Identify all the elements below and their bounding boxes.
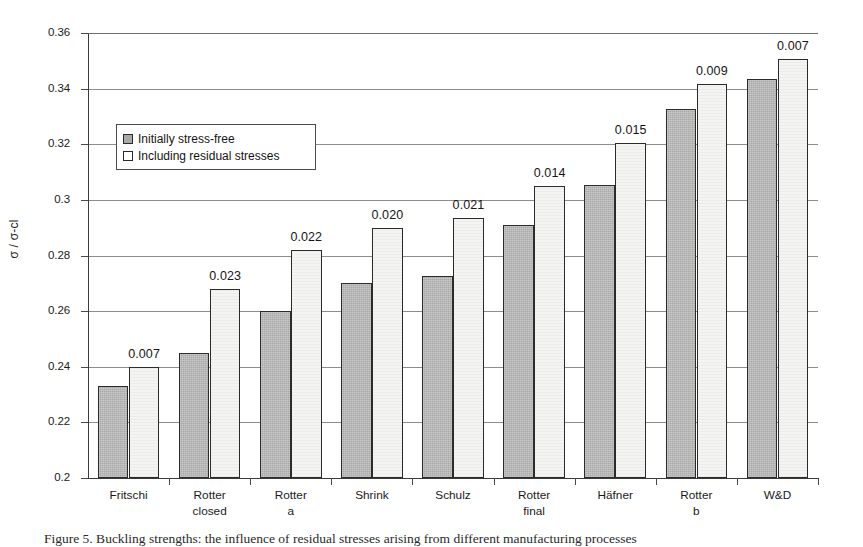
y-tick-label: 0.2 [24,472,70,483]
x-category-label: Häfner [575,488,656,504]
y-tick-mark [81,422,88,423]
x-category-label: Shrink [331,488,412,504]
y-tick-mark [81,311,88,312]
y-tick-mark [81,144,88,145]
x-category-label: Rotter a [250,488,331,519]
y-tick-label: 0.3 [24,194,70,205]
y-tick-label: 0.22 [24,416,70,427]
legend-label-1: Including residual stresses [138,149,279,163]
bar-stress-free [260,311,291,478]
y-tick-label: 0.32 [24,138,70,149]
data-label: 0.023 [203,269,248,283]
x-tick-mark [169,478,170,485]
data-label: 0.014 [527,166,572,180]
data-label: 0.022 [284,230,329,244]
y-tick-mark [81,200,88,201]
bar-residual [453,218,484,478]
x-tick-mark [331,478,332,485]
bar-stress-free [584,185,615,478]
bar-residual [291,250,322,478]
bar-stress-free [341,283,372,478]
x-tick-mark [737,478,738,485]
x-tick-mark [818,478,819,485]
legend-item-1: Including residual stresses [123,147,308,164]
x-category-label: Rotter final [494,488,575,519]
x-tick-mark [656,478,657,485]
legend-item-0: Initially stress-free [123,130,308,147]
x-tick-mark [494,478,495,485]
bar-residual [697,84,728,478]
bar-residual [534,186,565,478]
chart-legend: Initially stress-free Including residual… [116,124,316,170]
data-label: 0.009 [690,64,735,78]
data-label: 0.020 [365,208,410,222]
y-tick-mark [81,478,88,479]
x-tick-mark [575,478,576,485]
x-category-label: Fritschi [88,488,169,504]
data-label: 0.015 [608,123,653,137]
x-category-label: W&D [737,488,818,504]
data-label: 0.007 [771,39,816,53]
series-1-swatch-icon [123,151,133,161]
x-tick-mark [250,478,251,485]
bar-stress-free [747,79,778,478]
y-tick-label: 0.28 [24,250,70,261]
x-category-label: Schulz [412,488,493,504]
y-tick-label: 0.26 [24,305,70,316]
bar-stress-free [666,109,697,478]
legend-label-0: Initially stress-free [138,132,235,146]
series-0-swatch-icon [123,134,133,144]
y-tick-mark [81,33,88,34]
y-axis-title: σ / σ-cl [7,193,21,285]
figure-caption: Figure 5. Buckling strengths: the influe… [44,531,834,547]
data-label: 0.021 [446,198,491,212]
bar-stress-free [503,225,534,478]
x-axis-line [88,478,818,479]
x-tick-mark [412,478,413,485]
y-tick-mark [81,256,88,257]
data-label: 0.007 [122,347,167,361]
y-tick-label: 0.36 [24,27,70,38]
bar-residual [372,228,403,478]
bar-stress-free [422,276,453,478]
bar-residual [210,289,241,478]
y-tick-label: 0.24 [24,361,70,372]
y-tick-mark [81,367,88,368]
y-tick-label: 0.34 [24,83,70,94]
bar-stress-free [98,386,129,478]
bar-residual [129,367,160,478]
bar-residual [615,143,646,478]
y-tick-mark [81,89,88,90]
bar-residual [778,59,809,478]
x-category-label: Rotter b [656,488,737,519]
bar-stress-free [179,353,210,478]
x-category-label: Rotter closed [169,488,250,519]
